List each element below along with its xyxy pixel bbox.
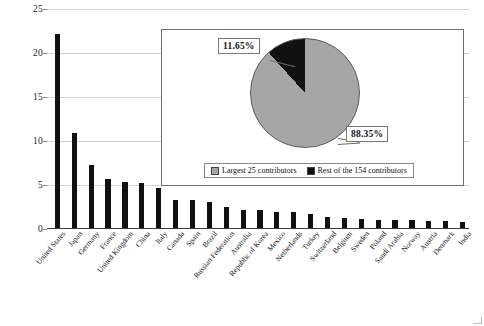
legend-item-rest-154: Rest of the 154 contributors (307, 166, 407, 175)
bar (443, 221, 448, 228)
y-tick-label: 20 (33, 48, 43, 58)
bar (139, 183, 144, 228)
bar (409, 220, 414, 228)
x-tick-label: India (457, 230, 473, 247)
bar (122, 182, 127, 228)
bar (342, 218, 347, 228)
bar (224, 207, 229, 228)
bar (325, 217, 330, 228)
page-corner-mark (473, 317, 482, 324)
bar (105, 179, 110, 228)
pie-value-label-black: 11.65% (218, 38, 260, 54)
chart-root: 0510152025 United StatesJapanGermanyFran… (0, 0, 484, 326)
bar (308, 214, 313, 228)
bar (156, 188, 161, 228)
bar (241, 210, 246, 228)
y-tick-label: 15 (33, 92, 43, 102)
x-tick-label: Spain (185, 230, 202, 248)
y-tick-label: 25 (33, 4, 43, 14)
legend-item-largest-25: Largest 25 contributors (211, 166, 297, 175)
bar (426, 221, 431, 228)
legend-label-rest-154: Rest of the 154 contributors (318, 166, 407, 175)
pie-legend: Largest 25 contributors Rest of the 154 … (204, 163, 414, 178)
pie-slices (250, 38, 360, 148)
bar (392, 220, 397, 228)
x-axis-labels: United StatesJapanGermanyFranceUnited Ki… (47, 230, 469, 326)
bar (274, 212, 279, 228)
bar (376, 220, 381, 228)
y-tick-label: 10 (33, 136, 43, 146)
legend-label-largest-25: Largest 25 contributors (222, 166, 297, 175)
bar (173, 200, 178, 228)
bar (257, 210, 262, 228)
bar (291, 212, 296, 228)
bar (207, 202, 212, 228)
bar (359, 219, 364, 228)
pie-value-label-gray: 88.35% (346, 126, 388, 142)
bar (72, 133, 77, 228)
bar (55, 34, 60, 228)
legend-swatch-icon-black (307, 167, 315, 175)
pie-chart (250, 38, 360, 148)
x-tick-label: United States (35, 230, 67, 266)
bar (89, 165, 94, 228)
bar (190, 200, 195, 228)
legend-swatch-icon-gray (211, 167, 219, 175)
x-tick-label: China (134, 230, 151, 249)
pie-inset-panel: 11.65% 88.35% Largest 25 contributors Re… (161, 29, 464, 186)
